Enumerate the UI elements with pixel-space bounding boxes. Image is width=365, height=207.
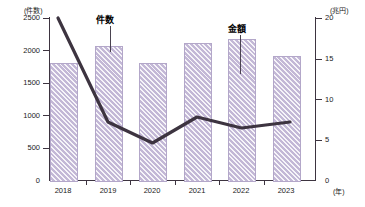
amount-line-series — [0, 0, 365, 207]
combo-chart: (件数) (兆円) 2500 2000 1500 1000 500 0 20 1… — [0, 0, 365, 207]
bars-callout-label: 件数 — [96, 13, 114, 26]
amount-line-path — [58, 18, 290, 143]
bars-callout-leader — [110, 26, 111, 52]
line-callout-leader — [240, 35, 241, 74]
line-callout-label: 金額 — [228, 22, 246, 35]
